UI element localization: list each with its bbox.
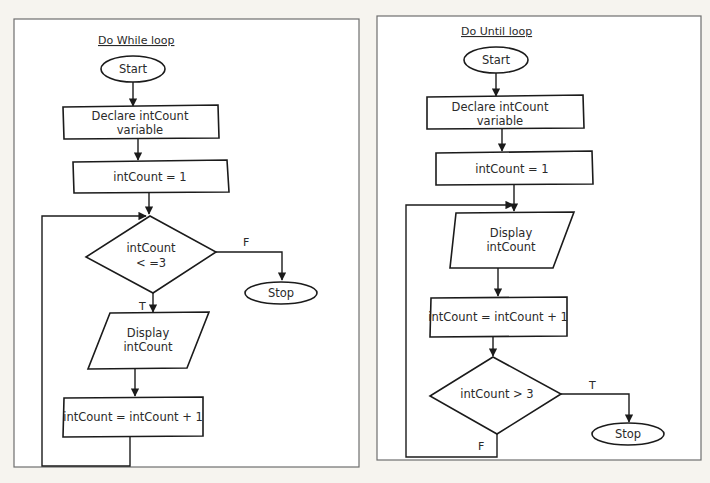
svg-text:< =3: < =3 (136, 256, 166, 270)
stop-terminator: Stop (245, 282, 317, 304)
svg-text:intCount > 3: intCount > 3 (460, 387, 533, 401)
do-until-title: Do Until loop (461, 25, 532, 38)
svg-text:intCount = 1: intCount = 1 (113, 170, 186, 184)
svg-text:Declare intCount: Declare intCount (452, 100, 549, 114)
svg-text:Stop: Stop (615, 427, 641, 441)
svg-text:Display: Display (490, 226, 533, 240)
svg-text:intCount: intCount (486, 240, 536, 254)
svg-text:intCount = intCount + 1: intCount = intCount + 1 (428, 310, 568, 324)
do-while-title: Do While loop (98, 34, 174, 47)
svg-text:variable: variable (477, 114, 523, 128)
do-while-panel: Do While loop Start Declare intCount var… (14, 19, 359, 467)
svg-text:Start: Start (119, 62, 148, 76)
svg-text:variable: variable (117, 123, 163, 137)
start-terminator: Start (101, 56, 165, 82)
svg-text:Stop: Stop (268, 286, 294, 300)
svg-text:intCount: intCount (123, 340, 173, 354)
start-terminator: Start (464, 47, 528, 73)
increment-process: intCount = intCount + 1 (428, 297, 568, 337)
flowchart-diagram: Do While loop Start Declare intCount var… (0, 0, 710, 483)
svg-text:intCount = 1: intCount = 1 (475, 162, 548, 176)
stop-terminator: Stop (592, 423, 664, 445)
do-until-panel: Do Until loop Start Declare intCount var… (377, 16, 701, 460)
svg-text:Declare intCount: Declare intCount (92, 109, 189, 123)
declare-process: Declare intCount variable (63, 105, 219, 139)
declare-process: Declare intCount variable (427, 95, 584, 129)
increment-process: intCount = intCount + 1 (63, 397, 203, 437)
svg-text:intCount: intCount (126, 241, 176, 255)
init-process: intCount = 1 (436, 151, 593, 185)
init-process: intCount = 1 (73, 160, 229, 193)
false-label: F (243, 236, 249, 249)
true-label: T (588, 379, 596, 392)
display-io: Display intCount (450, 212, 574, 268)
false-label: F (478, 440, 484, 453)
svg-text:intCount = intCount + 1: intCount = intCount + 1 (63, 410, 203, 424)
true-label: T (138, 300, 146, 313)
svg-text:Start: Start (482, 53, 511, 67)
svg-text:Display: Display (127, 326, 170, 340)
